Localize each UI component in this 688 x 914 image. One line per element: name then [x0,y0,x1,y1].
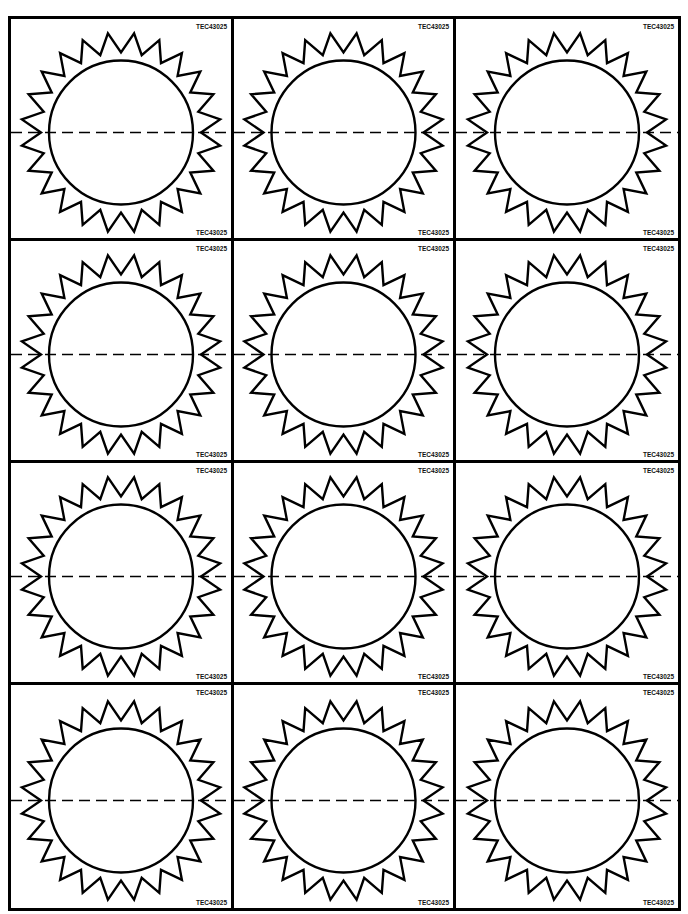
sun-card: TEC43025TEC43025 [11,241,234,463]
sun-card: TEC43025TEC43025 [234,463,456,685]
product-code-bottom: TEC43025 [196,899,227,906]
product-code-bottom: TEC43025 [643,899,674,906]
product-code-bottom: TEC43025 [418,229,449,236]
sun-icon [11,685,231,908]
product-code-bottom: TEC43025 [418,899,449,906]
sun-icon [234,463,453,682]
sun-card: TEC43025TEC43025 [11,19,234,241]
cut-off-header-text [0,0,688,5]
sun-icon [11,241,231,460]
sun-icon [11,19,231,238]
sun-icon [456,685,678,908]
sun-icon [234,685,453,908]
sun-card: TEC43025TEC43025 [11,463,234,685]
product-code-bottom: TEC43025 [196,451,227,458]
product-code-bottom: TEC43025 [643,673,674,680]
sun-card: TEC43025TEC43025 [11,685,234,908]
sun-card: TEC43025TEC43025 [234,685,456,908]
product-code-bottom: TEC43025 [418,673,449,680]
sun-icon [456,463,678,682]
sun-card: TEC43025TEC43025 [234,241,456,463]
sun-icon [234,241,453,460]
sun-icon [456,241,678,460]
sun-card: TEC43025TEC43025 [456,463,678,685]
sun-icon [11,463,231,682]
product-code-bottom: TEC43025 [643,451,674,458]
sun-card: TEC43025TEC43025 [234,19,456,241]
sun-icon [234,19,453,238]
sun-card: TEC43025TEC43025 [456,241,678,463]
sun-card: TEC43025TEC43025 [456,19,678,241]
sun-card: TEC43025TEC43025 [456,685,678,908]
product-code-bottom: TEC43025 [643,229,674,236]
product-code-bottom: TEC43025 [196,673,227,680]
sun-icon [456,19,678,238]
product-code-bottom: TEC43025 [418,451,449,458]
card-grid: TEC43025TEC43025 TEC43025TEC43025 TEC430… [11,19,678,908]
product-code-bottom: TEC43025 [196,229,227,236]
sun-card-sheet: TEC43025TEC43025 TEC43025TEC43025 TEC430… [8,16,681,911]
